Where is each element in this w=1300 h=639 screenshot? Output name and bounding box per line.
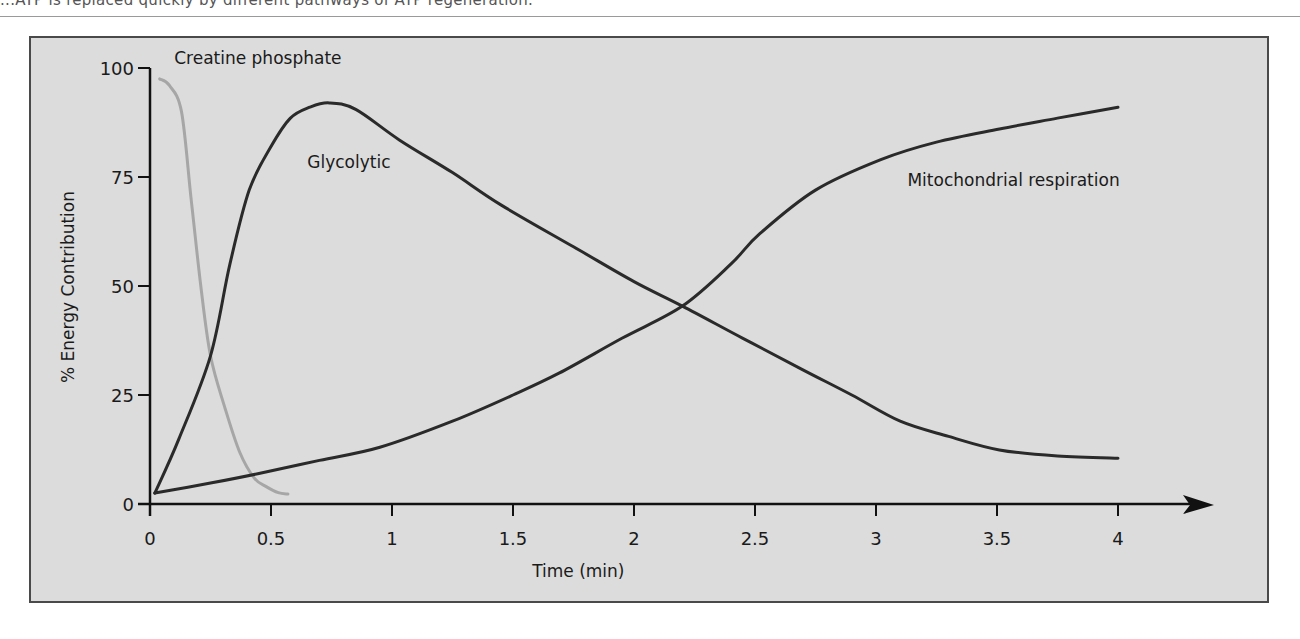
x-tick-label: 4: [1112, 528, 1123, 549]
series-layer: [155, 79, 1118, 494]
x-tick-label: 3.5: [983, 528, 1012, 549]
energy-contribution-chart: 025507510000.511.522.533.54Time (min)% E…: [0, 0, 1300, 639]
x-tick-label: 0: [144, 528, 155, 549]
labels-layer: Creatine phosphateGlycolyticMitochondria…: [174, 48, 1119, 190]
axes: 025507510000.511.522.533.54Time (min)% E…: [58, 58, 1214, 581]
x-tick-label: 0.5: [257, 528, 286, 549]
x-tick-label: 1: [386, 528, 397, 549]
x-tick-label: 2.5: [741, 528, 770, 549]
y-tick-label: 100: [100, 58, 134, 79]
series-label-mitochondrial-respiration: Mitochondrial respiration: [907, 170, 1119, 190]
x-tick-label: 3: [870, 528, 881, 549]
y-tick-label: 75: [111, 167, 134, 188]
x-tick-label: 1.5: [499, 528, 528, 549]
series-line-glycolytic: [155, 103, 1118, 493]
y-axis-title: % Energy Contribution: [58, 191, 78, 383]
x-tick-label: 2: [628, 528, 639, 549]
series-label-creatine-phosphate: Creatine phosphate: [174, 48, 341, 68]
series-line-mitochondrial-respiration: [155, 107, 1118, 493]
y-tick-label: 25: [111, 385, 134, 406]
y-tick-label: 0: [123, 494, 134, 515]
x-axis-title: Time (min): [531, 561, 624, 581]
y-tick-label: 50: [111, 276, 134, 297]
series-label-glycolytic: Glycolytic: [307, 152, 390, 172]
